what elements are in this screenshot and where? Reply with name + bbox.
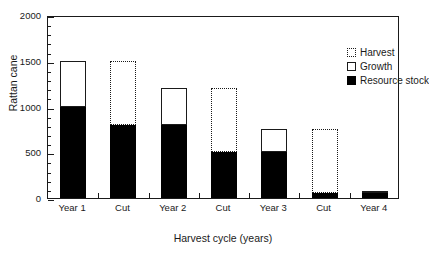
x-axis-tick (199, 193, 200, 198)
bar-segment-growth (60, 61, 86, 107)
bar-segment-resource-stock (60, 107, 86, 199)
y-axis-tick (48, 154, 54, 155)
bar-segment-harvest (211, 88, 237, 152)
plot-area (48, 17, 398, 198)
x-axis-category-label: Year 4 (334, 203, 414, 213)
y-axis-tick-label: 2000 (0, 11, 41, 21)
bar-segment-resource-stock (312, 193, 338, 198)
plot-frame: Harvest Growth Resource stock (47, 16, 399, 199)
x-axis-title: Harvest cycle (years) (47, 232, 399, 244)
legend-item-resource-stock: Resource stock (347, 74, 429, 87)
y-axis-tick (48, 17, 54, 18)
y-axis-minor-tick (48, 35, 51, 36)
x-axis-tick (249, 193, 250, 198)
bar-segment-harvest (312, 129, 338, 193)
y-axis-minor-tick (48, 118, 51, 119)
y-axis-minor-tick (48, 44, 51, 45)
bar-group (110, 15, 136, 198)
x-axis-tick (149, 193, 150, 198)
y-axis-tick-label: 1000 (0, 103, 41, 113)
y-axis-tick (48, 200, 54, 201)
y-axis-tick (48, 63, 54, 64)
legend-label-harvest: Harvest (360, 48, 394, 58)
open-square-icon (347, 62, 356, 71)
x-axis-tick (299, 193, 300, 198)
bar-segment-growth (161, 88, 187, 125)
y-axis-tick (48, 109, 54, 110)
y-axis-minor-tick (48, 54, 51, 55)
y-axis-tick-label: 500 (0, 148, 41, 158)
y-axis-minor-tick (48, 81, 51, 82)
y-axis-minor-tick (48, 163, 51, 164)
bar-segment-resource-stock (161, 125, 187, 198)
legend-item-harvest: Harvest (347, 46, 429, 59)
y-axis-minor-tick (48, 136, 51, 137)
bar-group (312, 15, 338, 198)
bar-segment-resource-stock (362, 193, 388, 198)
y-axis-minor-tick (48, 191, 51, 192)
bar-group (60, 15, 86, 198)
x-axis-tick (350, 193, 351, 198)
chart-legend: Harvest Growth Resource stock (347, 46, 429, 88)
y-axis-minor-tick (48, 182, 51, 183)
bar-group (362, 15, 388, 198)
y-axis-minor-tick (48, 26, 51, 27)
bar-segment-resource-stock (110, 125, 136, 198)
y-axis-minor-tick (48, 90, 51, 91)
legend-label-growth: Growth (360, 62, 392, 72)
y-axis-minor-tick (48, 127, 51, 128)
bar-group (211, 15, 237, 198)
y-axis-minor-tick (48, 99, 51, 100)
y-axis-tick-label: 1500 (0, 57, 41, 67)
y-axis-minor-tick (48, 72, 51, 73)
y-axis-minor-tick (48, 145, 51, 146)
filled-square-icon (347, 76, 356, 85)
bar-group (161, 15, 187, 198)
bar-segment-growth (261, 129, 287, 152)
bar-segment-growth (362, 191, 388, 193)
bar-segment-resource-stock (211, 152, 237, 198)
y-axis-minor-tick (48, 173, 51, 174)
bar-segment-resource-stock (261, 152, 287, 198)
legend-label-resource-stock: Resource stock (360, 76, 429, 86)
dotted-square-icon (347, 48, 356, 57)
bar-segment-harvest (110, 61, 136, 125)
bar-group (261, 15, 287, 198)
legend-item-growth: Growth (347, 60, 429, 73)
x-axis-tick (98, 193, 99, 198)
